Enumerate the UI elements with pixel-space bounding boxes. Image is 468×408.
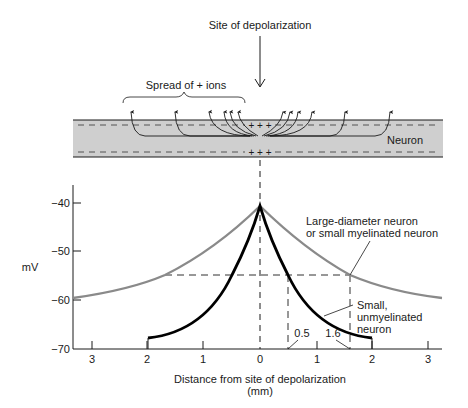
x-tick-label: 2 xyxy=(369,353,375,365)
marker-1-6-leader xyxy=(336,340,350,349)
x-tick-label: 3 xyxy=(89,353,95,365)
x-marker-0-5: 0.5 xyxy=(294,327,309,339)
site-of-depolarization-label: Site of depolarization xyxy=(209,19,312,31)
x-tick-label: 3 xyxy=(425,353,431,365)
plus-charges-bottom: + + + xyxy=(248,147,271,158)
large-diameter-label-line2: or small myelinated neuron xyxy=(306,227,438,239)
y-tick-label: −50 xyxy=(51,245,70,257)
x-axis-units: (mm) xyxy=(247,385,273,397)
marker-0-5-leader xyxy=(288,340,298,349)
large-diameter-leader-line xyxy=(350,241,370,275)
y-tick-label: −60 xyxy=(51,294,70,306)
spread-of-ions-label: Spread of + ions xyxy=(146,79,227,91)
down-arrow-icon xyxy=(255,36,265,87)
large-diameter-label: Large-diameter neuron xyxy=(306,215,418,227)
x-tick-label: 0 xyxy=(257,353,263,365)
small-unmyelinated-label-line3: neuron xyxy=(357,323,391,335)
y-tick-label: −70 xyxy=(51,343,70,355)
y-tick-label: −40 xyxy=(51,197,70,209)
neuron-label: Neuron xyxy=(387,134,423,146)
small-unmyelinated-leader-line xyxy=(324,305,353,316)
x-marker-1-6: 1.6 xyxy=(325,327,340,339)
y-axis-label: mV xyxy=(22,261,39,273)
plus-charges-top: + + + xyxy=(248,120,271,131)
small-unmyelinated-label-line2: unmyelinated xyxy=(357,311,422,323)
reference-dashed-lines xyxy=(165,275,350,349)
y-axis: −40 −50 −60 −70 mV xyxy=(22,185,81,355)
x-tick-label: 1 xyxy=(200,353,206,365)
x-axis-label: Distance from site of depolarization xyxy=(174,373,346,385)
brace-icon xyxy=(123,92,245,103)
x-axis: 3 2 1 0 1 2 3 Distance from site of depo… xyxy=(73,341,442,397)
neuron-depolarization-figure: Site of depolarization Spread of + ions … xyxy=(0,0,468,408)
x-tick-label: 2 xyxy=(144,353,150,365)
x-tick-label: 1 xyxy=(314,353,320,365)
small-unmyelinated-label: Small, xyxy=(357,299,388,311)
